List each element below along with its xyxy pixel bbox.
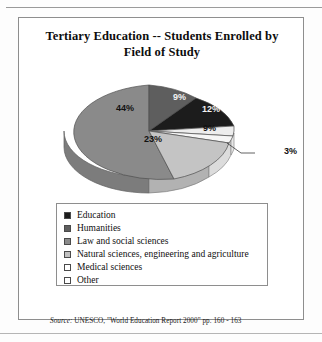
legend-swatch-icon [64, 251, 71, 258]
legend-item-label: Natural sciences, engineering and agricu… [77, 249, 249, 260]
chart-legend: Education Humanities Law and social scie… [56, 203, 268, 286]
pie-chart-plot-area: 44% 9% 12% 9% 23% 3% [19, 73, 303, 201]
source-note: Source: UNESCO, "World Education Report … [50, 317, 241, 325]
legend-swatch-icon [64, 264, 71, 271]
legend-item-label: Humanities [77, 223, 121, 234]
legend-item-other: Other [64, 274, 267, 286]
legend-item-label: Law and social sciences [77, 236, 169, 247]
source-label: Source: [50, 317, 72, 325]
legend-swatch-icon [64, 238, 71, 245]
legend-item-natural-sciences: Natural sciences, engineering and agricu… [64, 248, 267, 260]
figure-frame: Tertiary Education -- Students Enrolled … [18, 17, 304, 320]
pie-label-3-percent: 3% [284, 147, 297, 156]
pie-label-12-percent: 12% [202, 105, 220, 114]
source-text: UNESCO, "World Education Report 2000" pp… [74, 317, 241, 325]
legend-item-label: Education [77, 210, 116, 221]
legend-swatch-icon [64, 212, 71, 219]
pie-label-9-percent-law: 9% [203, 124, 216, 133]
page-rule-bottom [0, 333, 322, 334]
legend-item-humanities: Humanities [64, 222, 267, 234]
scanned-page: Tertiary Education -- Students Enrolled … [0, 0, 322, 342]
legend-item-label: Other [77, 275, 99, 286]
page-title: Tertiary Education -- Students Enrolled … [39, 28, 285, 60]
legend-item-label: Medical sciences [77, 262, 142, 273]
page-rule-top [6, 7, 322, 8]
legend-swatch-icon [64, 225, 71, 232]
pie-label-23-percent: 23% [144, 135, 162, 144]
legend-item-law-and-social-sciences: Law and social sciences [64, 235, 267, 247]
legend-swatch-icon [64, 277, 71, 284]
pie-chart: 44% 9% 12% 9% 23% 3% [59, 73, 239, 191]
pie-label-44-percent: 44% [116, 104, 134, 113]
legend-item-medical-sciences: Medical sciences [64, 261, 267, 273]
pie-label-9-percent-humanities: 9% [173, 93, 186, 102]
legend-item-education: Education [64, 209, 267, 221]
